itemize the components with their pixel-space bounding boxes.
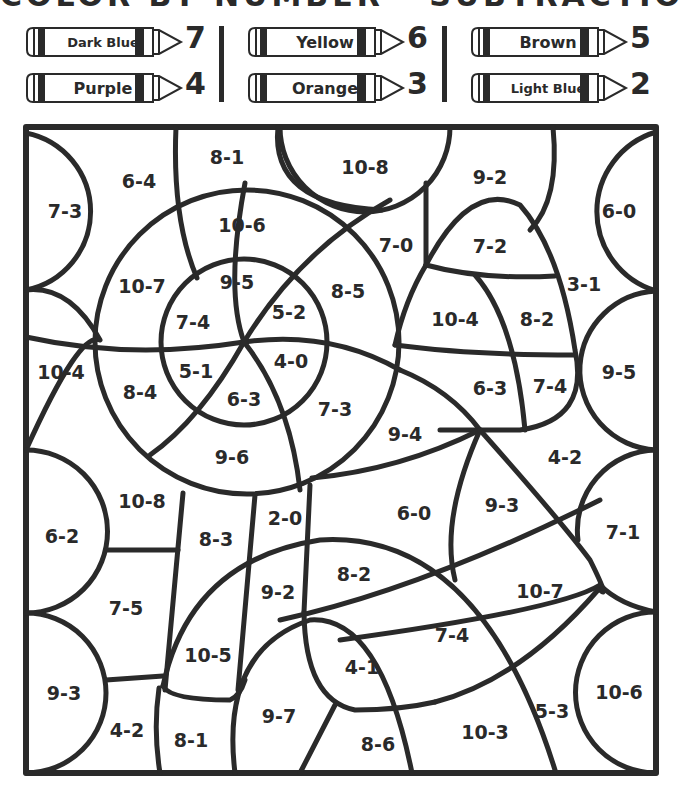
region-label: 9-2 [473, 166, 507, 188]
region-label: 7-4 [533, 375, 567, 397]
coloring-board: 7-36-48-110-89-26-010-67-07-210-79-58-53… [0, 0, 681, 804]
region-label: 8-1 [174, 729, 208, 751]
region-label: 10-6 [595, 681, 643, 703]
region-label: 10-7 [118, 275, 166, 297]
region-label: 5-3 [535, 700, 569, 722]
region-label: 9-7 [262, 705, 296, 727]
region-label: 10-8 [118, 490, 166, 512]
region-label: 3-1 [567, 273, 601, 295]
region-label: 8-5 [331, 280, 365, 302]
region-label: 5-2 [272, 301, 306, 323]
region-label: 6-3 [473, 377, 507, 399]
region-label: 7-2 [473, 235, 507, 257]
region-label: 4-1 [345, 656, 379, 678]
region-label: 10-4 [37, 361, 85, 383]
region-label: 5-1 [179, 360, 213, 382]
region-label: 10-4 [431, 308, 479, 330]
region-label: 7-3 [318, 398, 352, 420]
region-label: 10-7 [516, 580, 564, 602]
region-label: 8-6 [361, 733, 395, 755]
region-label: 9-3 [47, 682, 81, 704]
region-label: 9-5 [602, 361, 636, 383]
region-label: 8-2 [520, 308, 554, 330]
region-label: 6-0 [602, 200, 636, 222]
region-label: 9-6 [215, 446, 249, 468]
region-label: 2-0 [268, 507, 302, 529]
region-label: 7-4 [435, 624, 469, 646]
region-label: 10-6 [218, 214, 266, 236]
region-label: 7-0 [379, 234, 413, 256]
region-label: 9-3 [485, 494, 519, 516]
region-label: 4-0 [274, 350, 308, 372]
region-label: 9-2 [261, 581, 295, 603]
region-label: 10-8 [341, 156, 389, 178]
region-label: 6-3 [227, 388, 261, 410]
region-label: 4-2 [548, 446, 582, 468]
region-label: 8-3 [199, 528, 233, 550]
region-label: 6-2 [45, 525, 79, 547]
region-label: 10-3 [461, 721, 509, 743]
region-label: 7-1 [606, 521, 640, 543]
region-label: 7-5 [109, 597, 143, 619]
region-label: 7-4 [176, 311, 210, 333]
region-label: 4-2 [110, 719, 144, 741]
region-label: 7-3 [48, 200, 82, 222]
region-label: 8-4 [123, 381, 157, 403]
region-label: 9-4 [388, 423, 422, 445]
region-label: 6-0 [397, 502, 431, 524]
region-label: 6-4 [122, 170, 156, 192]
region-label: 9-5 [220, 271, 254, 293]
region-label: 10-5 [184, 644, 232, 666]
region-labels: 7-36-48-110-89-26-010-67-07-210-79-58-53… [37, 146, 643, 755]
region-label: 8-1 [210, 146, 244, 168]
region-label: 8-2 [337, 563, 371, 585]
